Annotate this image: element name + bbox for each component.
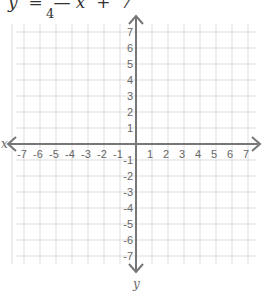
y-tick-label: -1 [123, 154, 133, 166]
y-tick-label: 5 [127, 58, 133, 70]
y-tick-label: -2 [123, 170, 133, 182]
y-tick-label: -7 [123, 250, 133, 262]
x-tick-label: -4 [65, 148, 75, 160]
x-tick-label: 1 [147, 148, 153, 160]
x-tick-label: 7 [243, 148, 249, 160]
coordinate-plane[interactable]: -7-6-5-4-3-2-112345677654321-1-2-3-4-5-6… [0, 0, 262, 295]
x-axis-label: x [1, 137, 8, 151]
x-tick-label: 4 [195, 148, 201, 160]
x-tick-label: -5 [49, 148, 59, 160]
y-tick-label: -6 [123, 234, 133, 246]
y-tick-label: -3 [123, 186, 133, 198]
y-tick-label: 3 [127, 90, 133, 102]
x-tick-label: 6 [227, 148, 233, 160]
y-axis-label: y [132, 277, 140, 291]
x-tick-label: -7 [17, 148, 27, 160]
y-tick-label: -4 [123, 202, 133, 214]
x-tick-label: -2 [97, 148, 107, 160]
y-tick-label: -5 [123, 218, 133, 230]
x-tick-label: 5 [211, 148, 217, 160]
x-tick-label: 3 [179, 148, 185, 160]
x-tick-label: -1 [113, 148, 123, 160]
y-tick-label: 4 [127, 74, 133, 86]
y-tick-label: 7 [127, 26, 133, 38]
x-tick-label: 2 [163, 148, 169, 160]
y-tick-label: 2 [127, 106, 133, 118]
y-tick-label: 6 [127, 42, 133, 54]
x-tick-label: -6 [33, 148, 43, 160]
x-tick-label: -3 [81, 148, 91, 160]
y-tick-label: 1 [127, 122, 133, 134]
